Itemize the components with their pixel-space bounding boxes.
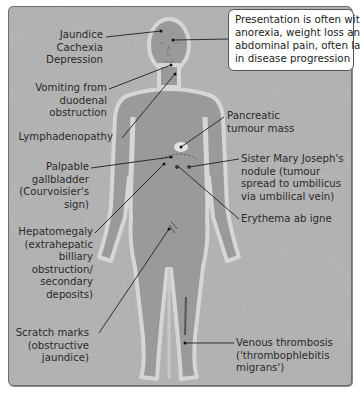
label-pancreatic-tumour: Pancreatic tumour mass [227,110,294,135]
presentation-callout: Presentation is often with anorexia, wei… [228,9,354,71]
thrombosis-mark [185,297,186,335]
label-scratch-marks: Scratch marks (obstructive jaundice) [9,327,89,365]
label-venous-thrombosis: Venous thrombosis ('thrombophlebitis mig… [236,337,333,375]
label-vomiting: Vomiting from duodenal obstruction [19,82,107,120]
label-sister-mary-joseph: Sister Mary Joseph's nodule (tumour spre… [241,153,344,203]
label-gallbladder: Palpable gallbladder (Courvoisier's sign… [9,161,89,211]
label-jaundice: Jaundice Cachexia Depression [29,29,103,67]
label-hepatomegaly: Hepatomegaly (extrahepatic billiary obst… [9,226,93,301]
label-lymphadenopathy: Lymphadenopathy [15,131,113,144]
label-erythema-ab-igne: Erythema ab igne [241,213,332,226]
